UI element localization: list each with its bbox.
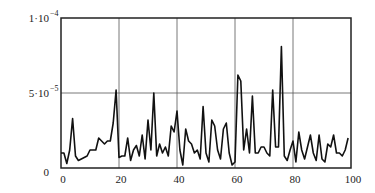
y-tick-exponent: −5 (50, 84, 59, 93)
line-chart: 020406080100 05·10−51·10−4 (0, 0, 375, 193)
x-tick-label: 40 (174, 173, 186, 185)
x-tick-label: 100 (345, 173, 362, 185)
y-tick-label: 0 (44, 166, 50, 178)
y-tick-exponent: −4 (50, 9, 59, 18)
y-axis-tick-labels: 05·10−51·10−4 (29, 9, 59, 178)
y-tick-label: 5·10 (29, 87, 50, 99)
x-tick-label: 60 (232, 173, 244, 185)
data-series-line (61, 47, 348, 166)
y-tick-label: 1·10 (29, 12, 50, 24)
x-axis-tick-labels: 020406080100 (60, 173, 362, 185)
x-tick-label: 20 (116, 173, 128, 185)
x-tick-label: 0 (60, 173, 66, 185)
x-tick-label: 80 (290, 173, 302, 185)
